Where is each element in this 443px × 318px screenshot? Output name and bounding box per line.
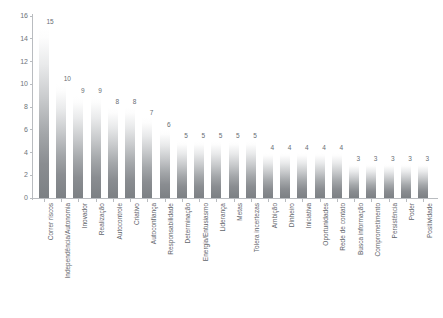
x-tick-mark	[182, 199, 183, 202]
bar-value-label: 3	[426, 155, 430, 163]
y-tick-label: 0	[24, 193, 28, 202]
bar	[125, 107, 135, 198]
bar-value-label: 5	[202, 132, 206, 140]
bar	[315, 153, 325, 199]
bar	[401, 164, 411, 198]
x-tick-mark	[320, 199, 321, 202]
x-axis-category-label: Rede de contato	[339, 203, 346, 251]
bar-value-label: 10	[64, 75, 71, 83]
x-axis-category-label: Comprometimento	[374, 203, 381, 256]
bar	[211, 141, 221, 198]
x-axis-category-label: Poder	[408, 203, 415, 220]
bar	[349, 164, 359, 198]
bar-value-label: 5	[184, 132, 188, 140]
bar	[332, 153, 342, 199]
bar	[280, 153, 290, 199]
bar-value-label: 4	[270, 144, 274, 152]
x-tick-mark	[165, 199, 166, 202]
bar-value-label: 8	[115, 98, 119, 106]
y-tick-label: 8	[24, 102, 28, 111]
x-tick-mark	[423, 199, 424, 202]
bar-value-label: 4	[339, 144, 343, 152]
x-tick-mark	[337, 199, 338, 202]
bar	[160, 130, 170, 198]
x-tick-mark	[251, 199, 252, 202]
x-tick-mark	[268, 199, 269, 202]
x-axis-category-label: Determinação	[184, 203, 191, 243]
x-axis-category-label: Responsabilidade	[167, 203, 174, 255]
bar-value-label: 15	[47, 18, 54, 26]
x-tick-mark	[302, 199, 303, 202]
bar	[177, 141, 187, 198]
bar	[108, 107, 118, 198]
x-tick-mark	[285, 199, 286, 202]
bar	[39, 27, 49, 198]
x-tick-mark	[61, 199, 62, 202]
bar	[366, 164, 376, 198]
x-axis-category-label: Ambição	[271, 203, 278, 228]
bar	[297, 153, 307, 199]
bar	[384, 164, 394, 198]
bar-value-label: 6	[167, 121, 171, 129]
x-axis-category-label: Criativo	[133, 203, 140, 225]
bar-value-label: 9	[98, 87, 102, 95]
bar-chart: 0246810121416 1510998876555554444433333 …	[0, 0, 443, 318]
bar-value-label: 3	[408, 155, 412, 163]
bar-value-label: 5	[236, 132, 240, 140]
x-axis-category-label: Dinheiro	[288, 203, 295, 227]
plot-area: 1510998876555554444433333	[33, 16, 437, 198]
bar-value-label: 5	[219, 132, 223, 140]
x-axis-category-label: Independência/Autonomia	[64, 203, 71, 279]
x-axis-category-label: Realização	[98, 203, 105, 235]
x-tick-mark	[371, 199, 372, 202]
x-tick-mark	[147, 199, 148, 202]
bar-value-label: 3	[357, 155, 361, 163]
y-tick-label: 4	[24, 148, 28, 157]
x-tick-mark	[130, 199, 131, 202]
y-tick-label: 12	[20, 57, 28, 66]
x-axis-category-label: Correr riscos	[47, 203, 54, 240]
y-tick-label: 16	[20, 11, 28, 20]
bar-value-label: 5	[253, 132, 257, 140]
bar	[73, 96, 83, 198]
bar	[56, 84, 66, 198]
x-axis-category-label: Metas	[236, 203, 243, 221]
bar-value-label: 3	[391, 155, 395, 163]
x-axis-category-label: Inovador	[81, 203, 88, 228]
x-tick-mark	[234, 199, 235, 202]
x-tick-mark	[216, 199, 217, 202]
bar	[418, 164, 428, 198]
bar	[229, 141, 239, 198]
bar-value-label: 9	[81, 87, 85, 95]
x-axis-line	[32, 198, 438, 199]
x-axis-category-label: Energia/Entusiasmo	[202, 203, 209, 261]
bar-value-label: 8	[133, 98, 137, 106]
bar-value-label: 7	[150, 109, 154, 117]
bar-value-label: 4	[322, 144, 326, 152]
bar	[263, 153, 273, 199]
x-tick-mark	[113, 199, 114, 202]
x-axis-category-label: Tolera incertezas	[253, 203, 260, 252]
x-axis-category-label: Liderança	[219, 203, 226, 232]
x-axis-category-label: Persistência	[391, 203, 398, 238]
bar-value-label: 3	[374, 155, 378, 163]
x-tick-mark	[96, 199, 97, 202]
bar	[246, 141, 256, 198]
y-tick-label: 2	[24, 170, 28, 179]
x-tick-mark	[354, 199, 355, 202]
x-axis-category-label: Positividade	[426, 203, 433, 238]
y-tick-label: 6	[24, 125, 28, 134]
x-tick-mark	[44, 199, 45, 202]
x-axis-category-label: Busca informação	[357, 203, 364, 255]
bar-value-label: 4	[305, 144, 309, 152]
x-tick-mark	[78, 199, 79, 202]
bar	[194, 141, 204, 198]
y-tick-label: 14	[20, 34, 28, 43]
x-axis-category-label: Autoconfiança	[150, 203, 157, 244]
bar	[142, 118, 152, 198]
bar	[91, 96, 101, 198]
x-tick-mark	[389, 199, 390, 202]
x-tick-mark	[406, 199, 407, 202]
x-axis-category-label: Autocontrole	[116, 203, 123, 240]
x-tick-mark	[199, 199, 200, 202]
